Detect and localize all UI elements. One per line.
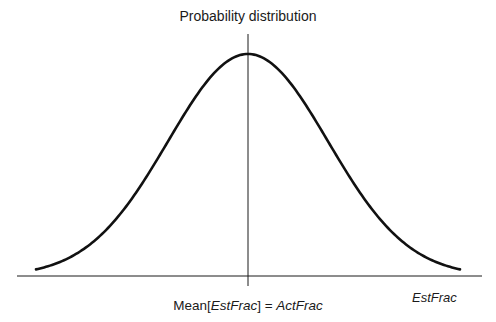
mean-var: EstFrac (211, 298, 258, 313)
distribution-diagram: Probability distribution EstFrac Mean[Es… (0, 0, 496, 322)
mean-suffix: ] = (257, 298, 276, 313)
mean-rhs: ActFrac (276, 298, 323, 313)
mean-label: Mean[EstFrac] = ActFrac (0, 298, 496, 313)
mean-prefix: Mean[ (173, 298, 211, 313)
bell-curve-plot (0, 0, 496, 322)
